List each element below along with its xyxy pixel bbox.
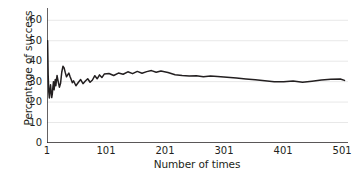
x-tick-label: 201 (155, 145, 174, 156)
x-tick-label: 101 (96, 145, 115, 156)
x-tick-label: 1 (44, 145, 50, 156)
x-tick-label: 401 (274, 145, 293, 156)
chart-figure: Percentage of success 0102030405060 1101… (0, 0, 354, 176)
y-tick-label: 40 (29, 56, 42, 66)
x-axis-title: Number of times (46, 158, 348, 170)
y-tick-label: 20 (29, 97, 42, 107)
data-series-line (47, 41, 344, 98)
y-tick-label: 60 (29, 15, 42, 25)
y-tick-label: 30 (29, 77, 42, 87)
series-path (47, 41, 344, 98)
y-tick-label: 0 (36, 138, 42, 148)
y-tick-label: 50 (29, 36, 42, 46)
y-axis-tick-labels: 0102030405060 (14, 0, 42, 176)
y-tick-label: 10 (29, 118, 42, 128)
x-tick-label: 301 (215, 145, 234, 156)
gridlines (47, 20, 348, 122)
x-tick-label: 501 (333, 145, 352, 156)
plot-area (47, 8, 348, 143)
line-chart-svg (47, 8, 348, 143)
